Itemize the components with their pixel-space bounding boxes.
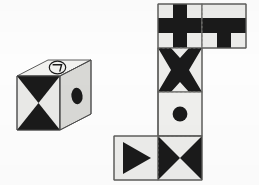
cube-svg — [14, 54, 102, 134]
unfolded-net — [110, 2, 250, 184]
net-square-bowtie — [158, 136, 202, 180]
net-svg — [110, 2, 250, 184]
net-square-triangle — [114, 136, 158, 180]
figure-canvas — [0, 0, 259, 185]
net-square-x — [158, 48, 202, 92]
dot-pattern — [173, 107, 188, 122]
net-square-dot — [158, 92, 202, 136]
cube-front-face — [17, 76, 60, 130]
net-square-tee — [202, 4, 246, 48]
cube — [14, 54, 102, 134]
net-square-plus — [158, 4, 202, 48]
